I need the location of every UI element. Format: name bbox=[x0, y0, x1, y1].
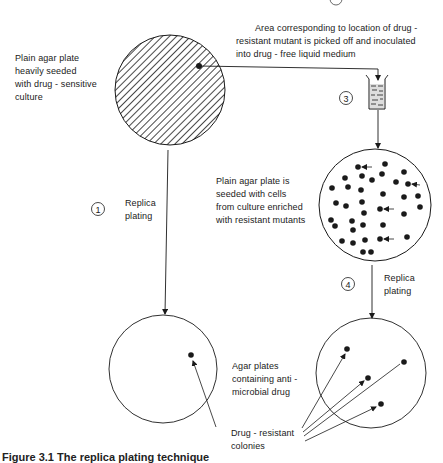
svg-text:3: 3 bbox=[343, 94, 348, 104]
label-pick-off: Area corresponding to location of drug -… bbox=[236, 21, 417, 60]
label-replica-plating-4: Replica plating bbox=[384, 271, 415, 297]
label-drug-resistant-colonies: Drug - resistant colonies bbox=[231, 426, 294, 452]
seeded-plate-resistant-mutants bbox=[319, 149, 431, 261]
liquid-medium-tube-icon bbox=[366, 75, 388, 109]
drug-plate-right bbox=[302, 318, 426, 441]
step-4-marker: 4 bbox=[342, 278, 355, 291]
figure-caption: Figure 3.1 The replica plating technique bbox=[2, 451, 209, 463]
label-replica-plating-1: Replica plating bbox=[125, 196, 156, 222]
pick-off-arrow bbox=[199, 66, 378, 80]
drug-plate-left bbox=[109, 315, 217, 427]
label-agar-plates: Agar plates containing anti - microbial … bbox=[232, 359, 297, 398]
colony-dots bbox=[328, 161, 423, 255]
label-seeded-plate: Plain agar plate is seeded with cells fr… bbox=[216, 174, 305, 226]
replica-plating-arrow-1 bbox=[165, 150, 168, 314]
top-plate-drug-sensitive bbox=[115, 35, 225, 145]
step-2-marker bbox=[330, 0, 342, 5]
step-1-marker: 1 bbox=[92, 203, 105, 216]
step-3-marker: 3 bbox=[340, 92, 353, 105]
resistant-colony-dot bbox=[188, 352, 194, 358]
label-top-plate: Plain agar plate heavily seeded with dru… bbox=[15, 51, 97, 103]
svg-text:1: 1 bbox=[95, 205, 100, 215]
svg-text:4: 4 bbox=[345, 280, 350, 290]
